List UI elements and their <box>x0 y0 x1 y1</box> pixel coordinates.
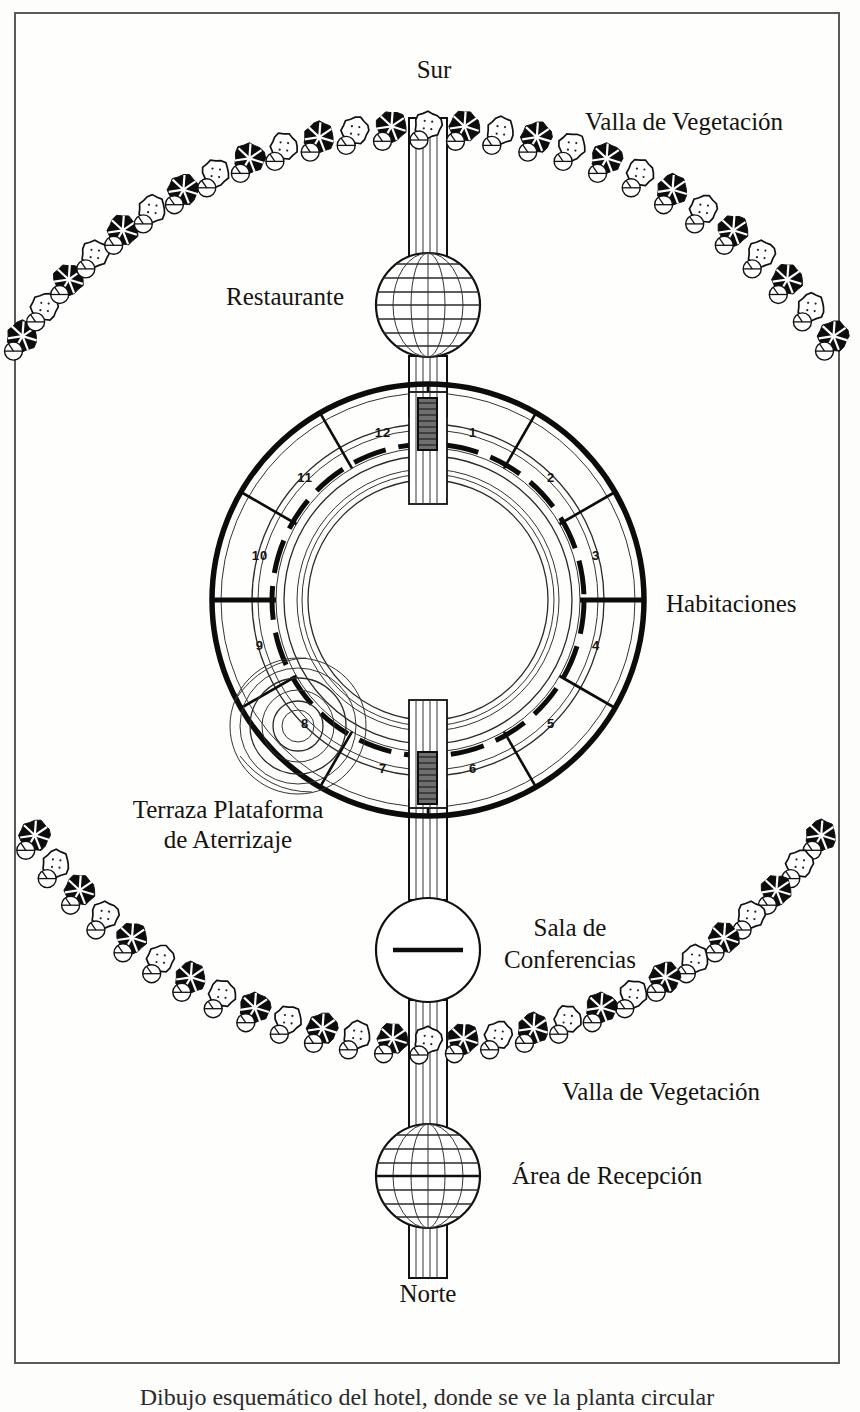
restaurant-globe <box>376 253 480 357</box>
room-number-6: 6 <box>469 761 477 776</box>
hedge-tree-small <box>301 143 319 161</box>
label-reception: Área de Recepción <box>512 1162 703 1189</box>
hotel-site-plan: 123456789101112 <box>0 0 860 1412</box>
label-hedge-bottom: Valla de Vegetación <box>562 1078 761 1105</box>
hedge-tree-small <box>589 164 607 182</box>
hedge-tree-small <box>339 1041 357 1059</box>
hedge-tree-small <box>143 965 161 983</box>
hedge-tree-small <box>793 313 811 331</box>
hedge-tree-small <box>445 1045 463 1063</box>
hedge-tree-small <box>769 286 787 304</box>
room-number-10: 10 <box>252 548 268 563</box>
stair-shaft-north <box>409 700 447 808</box>
drawing-plate: 123456789101112 <box>0 0 860 1412</box>
hedge-tree-small <box>481 1041 499 1059</box>
room-number-3: 3 <box>592 548 600 563</box>
hedge-tree-small <box>87 921 105 939</box>
room-number-4: 4 <box>592 638 600 653</box>
label-restaurant: Restaurante <box>226 283 344 310</box>
hedge-tree-small <box>165 196 183 214</box>
room-partition-wall <box>320 732 352 788</box>
room-number-1: 1 <box>469 425 477 440</box>
landing-platform-terrace <box>230 658 366 794</box>
hedge-tree-small <box>17 841 35 859</box>
hedge-tree-small <box>105 236 123 254</box>
hedge-tree-small <box>519 143 537 161</box>
hedge-tree-small <box>686 215 704 233</box>
label-terrace-line2: de Aterrizaje <box>164 826 292 853</box>
hedge-tree-small <box>483 136 501 154</box>
hedge-tree-small <box>743 260 761 278</box>
stair-shaft-south <box>409 392 447 504</box>
hedge-tree-small <box>410 131 428 149</box>
inner-courtyard <box>308 480 548 720</box>
hedge-tree-small <box>583 1014 601 1032</box>
hedge-tree-small <box>374 132 392 150</box>
hedge-tree-small <box>38 870 56 888</box>
hedge-tree-small <box>114 944 132 962</box>
hedge-tree-small <box>410 1046 428 1064</box>
hedge-tree-small <box>173 983 191 1001</box>
room-number-7: 7 <box>379 761 387 776</box>
room-number-9: 9 <box>256 638 264 653</box>
hedge-tree-small <box>270 1025 288 1043</box>
conference-hall <box>376 898 480 1002</box>
hedge-tree-small <box>204 1000 222 1018</box>
label-conference-line1: Sala de <box>534 914 607 941</box>
hedge-tree-small <box>231 164 249 182</box>
label-south: Sur <box>417 56 452 83</box>
room-number-5: 5 <box>547 716 555 731</box>
room-number-8: 8 <box>301 716 309 731</box>
hedge-tree-small <box>706 944 724 962</box>
room-number-2: 2 <box>547 470 555 485</box>
hedge-tree-small <box>77 260 95 278</box>
reception-globe <box>376 1124 480 1228</box>
label-conference-line2: Conferencias <box>504 946 636 973</box>
label-hedge-top: Valla de Vegetación <box>585 108 784 135</box>
hedge-tree-small <box>616 1000 634 1018</box>
hedge-tree-small <box>62 896 80 914</box>
label-rooms: Habitaciones <box>666 590 797 617</box>
hedge-tree-small <box>447 132 465 150</box>
room-partition-wall <box>560 492 616 524</box>
room-partition-wall <box>504 413 536 469</box>
hedge-tree-small <box>51 286 69 304</box>
hedge-tree-small <box>305 1034 323 1052</box>
hedge-tree-small <box>237 1014 255 1032</box>
hedge-tree-small <box>622 179 640 197</box>
room-number-11: 11 <box>297 470 313 485</box>
hedge-tree-small <box>655 196 673 214</box>
hedge-tree-small <box>266 152 284 170</box>
label-north: Norte <box>400 1280 457 1307</box>
corridor-north-bottom <box>409 1222 447 1278</box>
hedge-tree-small <box>5 342 23 360</box>
hedge-tree-small <box>715 236 733 254</box>
room-partition-wall <box>241 492 297 524</box>
room-partition-wall <box>504 732 536 788</box>
hedge-tree-small <box>554 152 572 170</box>
hedge-tree-small <box>516 1034 534 1052</box>
hedge-tree-small <box>134 215 152 233</box>
hedge-tree-small <box>647 983 665 1001</box>
room-number-12: 12 <box>375 425 391 440</box>
hedge-tree-small <box>27 313 45 331</box>
room-partition-wall <box>320 413 352 469</box>
room-partition-wall <box>560 676 616 708</box>
hedge-tree-small <box>816 342 834 360</box>
hedge-tree-small <box>375 1045 393 1063</box>
label-terrace-line1: Terraza Plataforma <box>133 796 324 823</box>
hedge-tree-small <box>337 136 355 154</box>
hedge-tree-small <box>198 179 216 197</box>
plate-caption: Dibujo esquemático del hotel, donde se v… <box>14 1384 840 1412</box>
hedge-tree-small <box>550 1025 568 1043</box>
corridor-conference-to-reception <box>409 1000 447 1128</box>
